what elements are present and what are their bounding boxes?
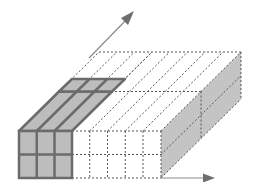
front-face-dotted-grid [72,131,161,178]
right-face [161,52,241,178]
highlighted-slab-top [19,79,125,131]
depth-axis-arrow-icon [89,11,134,58]
block-diagram [0,0,256,182]
x-axis-arrow-icon [161,174,215,183]
diagram-canvas: 3D block partition with highlighted slab [0,0,256,182]
highlighted-slab-front [19,131,72,178]
